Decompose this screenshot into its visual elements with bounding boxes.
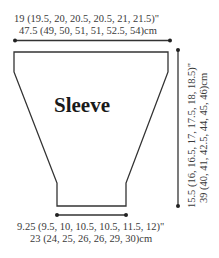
piece-label: Sleeve (54, 93, 110, 118)
sleeve-outline (14, 52, 168, 206)
length-dimension-line (176, 48, 180, 208)
length-cm: 39 (40, 41, 42.5, 44, 45, 46)cm (198, 73, 210, 203)
length-inches: 15.5 (16, 16.5, 17, 17.5, 18, 18.5)" (186, 63, 198, 208)
top-width-cm: 47.5 (49, 50, 51, 51, 52.5, 54)cm (19, 25, 157, 37)
top-width-dimension-line (13, 39, 172, 43)
bottom-width-dimension-line (55, 213, 128, 217)
bottom-width-inches: 9.25 (9.5, 10, 10.5, 10.5, 11.5, 12)" (17, 221, 164, 233)
bottom-width-cm: 23 (24, 25, 26, 26, 29, 30)cm (30, 233, 152, 245)
top-width-inches: 19 (19.5, 20, 20.5, 20.5, 21, 21.5)" (14, 13, 159, 25)
